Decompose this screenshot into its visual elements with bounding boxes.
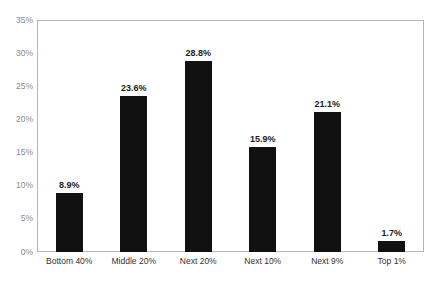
x-axis-tick-label: Top 1% bbox=[354, 256, 429, 266]
bar[interactable] bbox=[249, 147, 276, 252]
bar[interactable] bbox=[314, 112, 341, 252]
y-axis-tick-label: 5% bbox=[0, 214, 33, 223]
bars-layer: 8.9%23.6%28.8%15.9%21.1%1.7% bbox=[37, 20, 424, 252]
bar-group[interactable]: 15.9% bbox=[249, 20, 276, 252]
y-axis-tick-label: 35% bbox=[0, 16, 33, 25]
x-axis: Bottom 40%Middle 20%Next 20%Next 10%Next… bbox=[37, 256, 424, 276]
bar-group[interactable]: 23.6% bbox=[120, 20, 147, 252]
bar[interactable] bbox=[185, 61, 212, 252]
y-axis-tick-label: 30% bbox=[0, 49, 33, 58]
y-axis-tick-label: 15% bbox=[0, 148, 33, 157]
bar-group[interactable]: 8.9% bbox=[56, 20, 83, 252]
y-axis: 0%5%10%15%20%25%30%35% bbox=[0, 0, 33, 287]
bar-value-label: 8.9% bbox=[44, 180, 95, 190]
bar-group[interactable]: 1.7% bbox=[378, 20, 405, 252]
bar-value-label: 28.8% bbox=[173, 48, 224, 58]
bar-chart: 0%5%10%15%20%25%30%35% 8.9%23.6%28.8%15.… bbox=[0, 0, 434, 287]
y-axis-tick-label: 10% bbox=[0, 181, 33, 190]
bar-group[interactable]: 21.1% bbox=[314, 20, 341, 252]
y-axis-tick-label: 25% bbox=[0, 82, 33, 91]
bar-value-label: 23.6% bbox=[108, 83, 159, 93]
bar-value-label: 15.9% bbox=[237, 134, 288, 144]
y-axis-tick-label: 20% bbox=[0, 115, 33, 124]
bar[interactable] bbox=[56, 193, 83, 252]
bar[interactable] bbox=[120, 96, 147, 252]
bar-group[interactable]: 28.8% bbox=[185, 20, 212, 252]
bar[interactable] bbox=[378, 241, 405, 252]
bar-value-label: 1.7% bbox=[366, 228, 417, 238]
y-axis-tick-label: 0% bbox=[0, 248, 33, 257]
bar-value-label: 21.1% bbox=[302, 99, 353, 109]
